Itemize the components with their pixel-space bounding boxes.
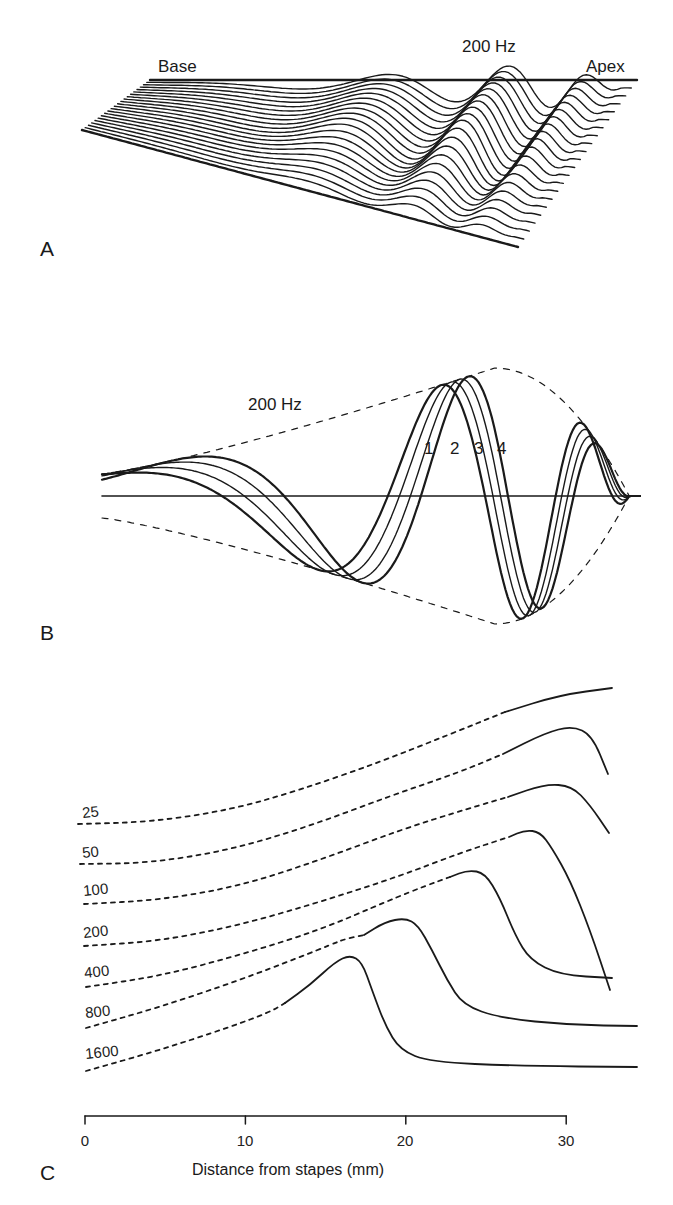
curve-1600-dashed: [86, 1003, 285, 1071]
curve-100-solid: [508, 785, 609, 833]
curve-label-200: 200: [82, 922, 108, 940]
x-tick-0: 0: [81, 1133, 89, 1148]
curve-label-25: 25: [81, 803, 99, 820]
curve-50-solid: [503, 728, 608, 774]
curve-800-solid: [364, 919, 637, 1026]
curve-label-800: 800: [84, 1002, 110, 1020]
x-axis-label: Distance from stapes (mm): [192, 1162, 384, 1178]
panel-c-letter: C: [40, 1162, 55, 1183]
curve-label-1600: 1600: [84, 1043, 119, 1061]
x-tick-20: 20: [397, 1133, 414, 1148]
curve-400-dashed: [86, 877, 450, 987]
curve-200-dashed: [84, 837, 509, 946]
x-tick-30: 30: [558, 1133, 575, 1148]
curve-200-solid: [509, 831, 610, 990]
curve-label-50: 50: [81, 843, 99, 860]
curve-800-dashed: [86, 935, 364, 1028]
curve-1600-solid: [285, 957, 637, 1067]
curve-25-solid: [505, 688, 612, 712]
panel-c-plot: [0, 0, 673, 1205]
curve-label-400: 400: [83, 962, 109, 980]
curve-label-100: 100: [82, 880, 108, 898]
curve-25-dashed: [78, 712, 505, 824]
curve-100-dashed: [84, 797, 508, 904]
x-tick-10: 10: [237, 1133, 254, 1148]
curve-50-dashed: [80, 754, 503, 864]
